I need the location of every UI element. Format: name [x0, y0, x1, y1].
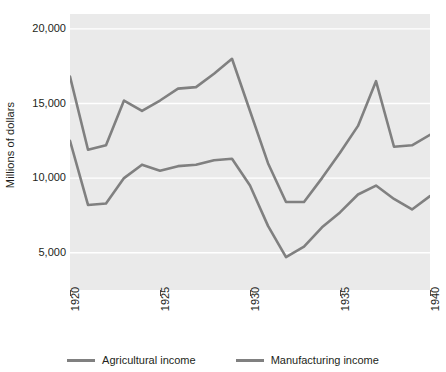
x-tick-label-text: 1940 — [430, 287, 441, 311]
legend-line-swatch-icon — [236, 359, 264, 362]
legend-item-label: Agricultural income — [102, 354, 196, 366]
x-tick-label-1940: 1940 — [410, 299, 446, 310]
plot-area — [70, 14, 430, 290]
legend-item-agricultural-income[interactable]: Agricultural income — [67, 354, 196, 366]
legend-line-swatch-icon — [67, 359, 95, 362]
x-tick-label-text: 1920 — [70, 287, 81, 311]
x-tick-label-text: 1935 — [340, 287, 351, 311]
y-tick-label-15000: 15,000 — [18, 98, 66, 109]
x-tick-label-text: 1925 — [160, 287, 171, 311]
x-axis: 19201925193019351940 — [0, 290, 446, 350]
chart-legend: Agricultural incomeManufacturing income — [0, 348, 446, 372]
y-tick-label-5000: 5,000 — [18, 247, 66, 258]
y-tick-label-10000: 10,000 — [18, 172, 66, 183]
x-tick-label-1920: 1920 — [50, 299, 90, 310]
x-tick-label-text: 1930 — [250, 287, 261, 311]
series-line-manufacturing-income — [70, 141, 430, 257]
x-tick-label-1930: 1930 — [230, 299, 270, 310]
plot-svg — [70, 14, 430, 290]
legend-item-label: Manufacturing income — [271, 354, 379, 366]
series-line-agricultural-income — [70, 59, 430, 202]
x-tick-label-1925: 1925 — [140, 299, 180, 310]
y-tick-label-20000: 20,000 — [18, 23, 66, 34]
x-tick-label-1935: 1935 — [320, 299, 360, 310]
line-chart: Millions of dollars 20,00015,00010,0005,… — [0, 0, 446, 372]
legend-item-manufacturing-income[interactable]: Manufacturing income — [236, 354, 379, 366]
